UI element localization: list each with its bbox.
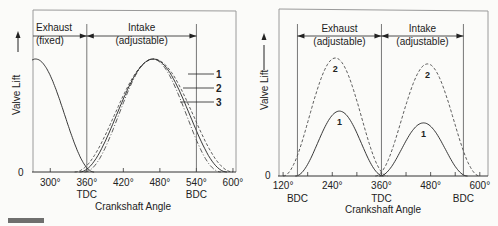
region-title: Intake: [409, 23, 437, 34]
region-title: Intake: [128, 22, 156, 33]
curve-3: [84, 59, 220, 172]
arrowhead-left-icon: [381, 34, 388, 39]
x-tick-label: 420°: [113, 177, 134, 188]
curve-label: 1: [337, 117, 342, 127]
x-tick-label: 480°: [420, 180, 441, 191]
arrowhead-right-icon: [189, 34, 196, 39]
arrowhead-right-icon: [374, 34, 381, 39]
curve-label: 1: [421, 129, 426, 139]
marker-label: TDC: [77, 189, 98, 200]
region-subtitle: (adjustable): [313, 36, 365, 47]
scan-artifact: [8, 218, 44, 223]
x-tick-label: 600°: [223, 177, 244, 188]
arrowhead-left-icon: [297, 34, 304, 39]
region-subtitle: (adjustable): [115, 35, 167, 46]
arrowhead-right-icon: [80, 34, 87, 39]
curve-exhaust-2: [283, 58, 388, 176]
marker-label: BDC: [453, 193, 474, 204]
region-subtitle: (adjustable): [396, 36, 448, 47]
valve-timing-figure: 300°360°420°480°540°600° TDCBDC Exhaust(…: [0, 0, 498, 226]
arrowhead-right-icon: [456, 34, 463, 39]
left-y-label: Valve Lift: [11, 74, 22, 115]
left-y-zero: 0: [18, 167, 24, 178]
curve-label: 2: [333, 64, 338, 74]
x-tick-label: 360°: [76, 177, 97, 188]
left-chart: 300°360°420°480°540°600° TDCBDC Exhaust(…: [11, 10, 243, 212]
curve-exhaust: [32, 59, 94, 172]
curve-2: [80, 59, 227, 172]
x-tick-label: 240°: [322, 180, 343, 191]
arrowhead-left-icon: [87, 34, 94, 39]
legend-label: 2: [216, 83, 222, 94]
marker-label: BDC: [287, 193, 308, 204]
left-y-arrow-icon: [16, 31, 21, 38]
x-tick-label: 360°: [371, 180, 392, 191]
region-subtitle: (fixed): [36, 35, 64, 46]
region-title: Exhaust: [36, 22, 72, 33]
marker-label: BDC: [186, 189, 207, 200]
curve-intake-2: [375, 64, 480, 176]
curve-label: 2: [425, 70, 430, 80]
marker-label: TDC: [371, 193, 392, 204]
x-tick-label: 480°: [150, 177, 171, 188]
x-tick-label: 540°: [186, 177, 207, 188]
right-y-zero: 0: [265, 170, 271, 181]
right-y-arrow-icon: [262, 33, 267, 40]
legend-label: 3: [216, 97, 222, 108]
left-x-label: Crankshaft Angle: [95, 201, 172, 212]
legend-label: 1: [216, 69, 222, 80]
x-tick-label: 600°: [469, 180, 490, 191]
right-y-label: Valve Lift: [259, 69, 270, 110]
right-chart: 120°240°360°480°600° 2121 BDCTDCBDC Exha…: [259, 9, 490, 215]
x-tick-label: 300°: [40, 177, 61, 188]
right-x-label: Crankshaft Angle: [345, 204, 422, 215]
region-title: Exhaust: [321, 23, 357, 34]
x-tick-label: 120°: [273, 180, 294, 191]
